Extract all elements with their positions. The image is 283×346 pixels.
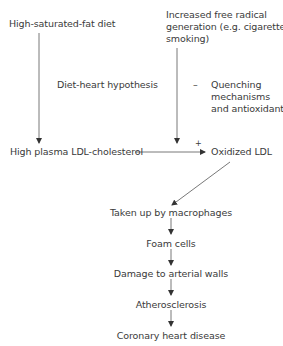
node-free-radical-line1: Increased free radical: [166, 9, 267, 21]
arrow-oxidized-to-macrophages: [172, 162, 230, 205]
minus-sign: –: [193, 79, 198, 91]
node-atherosclerosis: Atherosclerosis: [101, 299, 241, 311]
node-high-plasma-ldl-cholesterol: High plasma LDL-cholesterol: [10, 146, 143, 158]
node-damage-to-arterial-walls: Damage to arterial walls: [101, 268, 241, 280]
node-free-radical-line3: smoking): [166, 33, 209, 45]
node-foam-cells: Foam cells: [101, 238, 241, 250]
node-coronary-heart-disease: Coronary heart disease: [101, 330, 241, 342]
node-free-radical-line2: generation (e.g. cigarette: [166, 21, 283, 33]
connector-lines: [0, 0, 283, 346]
label-quenching-line3: and antioxidants: [211, 103, 283, 115]
label-quenching-line1: Quenching: [211, 79, 261, 91]
label-quenching-line2: mechanisms: [211, 91, 270, 103]
plus-sign: +: [195, 138, 202, 150]
node-oxidized-ldl: Oxidized LDL: [211, 146, 272, 158]
node-taken-up-by-macrophages: Taken up by macrophages: [101, 207, 241, 219]
node-high-saturated-fat-diet: High-saturated-fat diet: [9, 18, 115, 30]
label-diet-heart-hypothesis: Diet-heart hypothesis: [57, 79, 158, 91]
